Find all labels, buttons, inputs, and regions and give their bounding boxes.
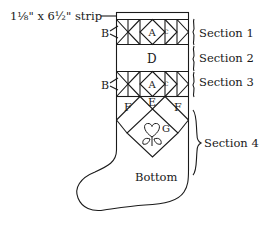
label-c-top: C: [164, 28, 169, 35]
section4-brace: [193, 110, 201, 175]
heart-flower-icon: [143, 123, 161, 146]
label-b-top: B: [101, 27, 109, 40]
section3-brace: [193, 72, 194, 97]
label-a-bottom: A: [148, 79, 157, 90]
section3-label: Section 3: [199, 75, 254, 89]
label-g: G: [162, 123, 170, 134]
section1-label: Section 1: [199, 26, 254, 40]
section2-label: Section 2: [199, 51, 254, 65]
label-f-left: F: [124, 101, 132, 114]
stocking-foot-outline: [77, 97, 189, 211]
label-f-right: F: [174, 101, 182, 114]
section1-brace: [193, 19, 194, 45]
label-bottom: Bottom: [135, 170, 178, 184]
label-c-bottom: C: [164, 80, 169, 87]
section4-label: Section 4: [204, 136, 259, 150]
strip-label: 1⅛" x 6½" strip: [10, 9, 102, 23]
section2-brace: [193, 46, 194, 71]
label-a-top: A: [148, 27, 157, 38]
stocking-diagram: 1⅛" x 6½" strip B A C D B A C E F F G Bo…: [0, 0, 275, 229]
label-b-bottom: B: [101, 79, 109, 92]
label-d: D: [147, 52, 157, 66]
label-e: E: [148, 96, 156, 109]
